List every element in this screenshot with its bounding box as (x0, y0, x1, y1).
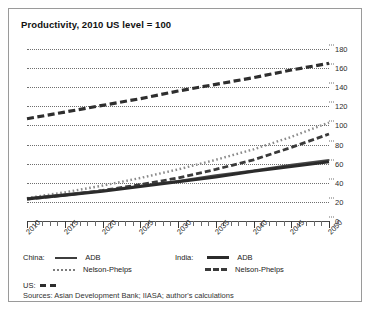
legend-key-india-adb (205, 254, 235, 261)
y-axis-labels: 020406080100120140160180 (331, 49, 365, 221)
series-line (27, 123, 329, 198)
y-axis-tick-label: 140 (335, 83, 348, 92)
series-line (27, 160, 329, 198)
legend-row-india-np: Nelson-Phelps (203, 264, 284, 274)
chart-title: Productivity, 2010 US level = 100 (21, 19, 171, 30)
plot-area (27, 49, 329, 221)
y-axis-tick-label: 60 (335, 159, 343, 168)
legend-row-us: US: (23, 280, 60, 290)
legend-label-china-adb: ADB (85, 253, 100, 262)
x-axis-minor-tick (238, 221, 239, 226)
y-axis-tick-label: 160 (335, 64, 348, 73)
x-axis-minor-tick (314, 221, 315, 226)
legend-group-us: US: (23, 281, 36, 290)
legend-key-china-nelson-phelps (51, 266, 81, 273)
x-axis-minor-tick (155, 221, 156, 226)
x-axis-minor-tick (208, 221, 209, 226)
x-axis-minor-tick (170, 221, 171, 226)
x-axis-minor-tick (125, 221, 126, 226)
series-line (27, 162, 329, 199)
legend-key-china-adb (53, 254, 83, 261)
x-axis-minor-tick (57, 221, 58, 226)
x-axis-minor-tick (87, 221, 88, 226)
legend-key-us (38, 282, 60, 289)
x-axis-minor-tick (321, 221, 322, 226)
series-line (27, 63, 329, 118)
legend-group-india: India: (175, 253, 203, 262)
y-axis-tick-label: 180 (335, 45, 348, 54)
legend-key-india-nelson-phelps (203, 266, 233, 273)
x-axis-minor-tick (95, 221, 96, 226)
legend-row-china-np: Nelson-Phelps (51, 264, 132, 274)
x-axis-minor-tick (306, 221, 307, 226)
y-axis-tick-label: 100 (335, 121, 348, 130)
x-axis-minor-tick (163, 221, 164, 226)
series-lines (27, 49, 329, 221)
x-axis-minor-tick (276, 221, 277, 226)
legend-label-india-nelson-phelps: Nelson-Phelps (235, 265, 284, 274)
y-axis-tick-label: 40 (335, 178, 343, 187)
x-axis-minor-tick (201, 221, 202, 226)
figure-panel: Productivity, 2010 US level = 100 020406… (8, 8, 362, 302)
legend-label-china-nelson-phelps: Nelson-Phelps (83, 265, 132, 274)
legend-row-china-adb: China: ADB (23, 252, 101, 262)
x-axis-minor-tick (42, 221, 43, 226)
x-axis-minor-tick (284, 221, 285, 226)
y-axis-tick-label: 20 (335, 197, 343, 206)
y-axis-tick-label: 120 (335, 102, 348, 111)
x-axis-minor-tick (246, 221, 247, 226)
legend-group-china: China: (23, 253, 51, 262)
sources-note: Sources: Asian Development Bank; IIASA; … (23, 291, 234, 300)
legend-label-india-adb: ADB (237, 253, 252, 262)
y-axis-tick-label: 80 (335, 140, 343, 149)
legend-row-india-adb: India: ADB (175, 252, 253, 262)
x-axis-minor-tick (193, 221, 194, 226)
x-axis-minor-tick (133, 221, 134, 226)
x-axis-minor-tick (50, 221, 51, 226)
